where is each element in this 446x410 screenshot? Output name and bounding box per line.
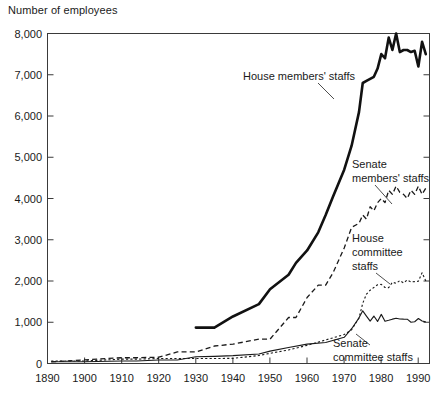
senate-members-label-line1: Senate (352, 158, 387, 170)
house-committee-label-line2: committee (352, 246, 403, 258)
senate-members-label-line2: members' staffs (352, 172, 430, 184)
x-tick-label: 1950 (258, 372, 282, 384)
house-committee-label-line3: staffs (352, 260, 379, 272)
y-tick-label: 7,000 (14, 69, 42, 81)
x-tick-label: 1930 (184, 372, 208, 384)
y-tick-label: 0 (36, 358, 42, 370)
house-committee-label-line1: House (352, 232, 384, 244)
y-tick-label: 8,000 (14, 28, 42, 40)
house-committee-leader-icon (376, 273, 390, 284)
x-tick-label: 1980 (369, 372, 393, 384)
y-axis-title: Number of employees (8, 4, 118, 16)
y-tick-label: 3,000 (14, 234, 42, 246)
x-tick-label: 1940 (221, 372, 245, 384)
x-axis-ticks: 1890 1900 1910 1920 1930 1940 1950 1960 … (35, 372, 430, 384)
y-axis-tickmarks-right (424, 75, 430, 323)
y-tick-label: 5,000 (14, 151, 42, 163)
x-tick-label: 1970 (332, 372, 356, 384)
y-tick-label: 4,000 (14, 193, 42, 205)
x-tick-label: 1920 (146, 372, 170, 384)
house-members-leader-icon (318, 83, 334, 99)
y-tick-label: 2,000 (14, 275, 42, 287)
annotation-leaders (318, 83, 392, 345)
senate-committee-label-line1: Senate (333, 337, 368, 349)
x-tick-label: 1900 (72, 372, 96, 384)
x-tick-label: 1910 (109, 372, 133, 384)
y-tick-label: 6,000 (14, 110, 42, 122)
y-tick-label: 1,000 (14, 316, 42, 328)
house-members-label: House members' staffs (243, 70, 355, 82)
x-tick-label: 1960 (295, 372, 319, 384)
chart-container: Number of employees 8,000 7,000 6,000 5,… (0, 0, 446, 410)
x-tick-label: 1890 (35, 372, 59, 384)
series-group (51, 34, 426, 362)
x-tick-label: 1990 (406, 372, 430, 384)
chart-svg: 8,000 7,000 6,000 5,000 4,000 3,000 2,00… (0, 0, 446, 410)
y-axis-tickmarks-left (48, 75, 54, 323)
y-axis-ticks: 8,000 7,000 6,000 5,000 4,000 3,000 2,00… (14, 28, 42, 370)
senate-committee-label-line2: committee staffs (333, 351, 413, 363)
series-house-committee-staffs (51, 273, 426, 361)
series-senate-members-staffs (51, 186, 426, 362)
